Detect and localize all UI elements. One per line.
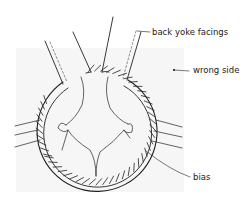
bias-hatching bbox=[36, 65, 156, 185]
right-yoke-strip bbox=[102, 17, 141, 80]
label-wrong-side: wrong side bbox=[193, 66, 239, 75]
left-yoke-strip bbox=[45, 32, 91, 84]
left-straps bbox=[15, 120, 40, 147]
label-back-yoke-facings: back yoke facings bbox=[152, 28, 228, 37]
bias-ring bbox=[37, 80, 157, 191]
label-leaders bbox=[137, 31, 190, 177]
diagram-canvas: back yoke facings wrong side bias bbox=[0, 0, 252, 200]
garment-shaping-lines bbox=[58, 77, 133, 176]
wrong-side-marker-dot bbox=[173, 69, 175, 71]
label-bias: bias bbox=[193, 173, 210, 182]
